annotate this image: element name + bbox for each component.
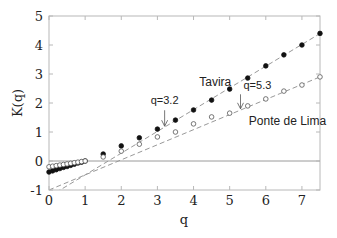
y-tick-label: 3 xyxy=(35,67,43,82)
series-label: Ponte de Lima xyxy=(249,114,327,128)
data-point xyxy=(191,122,196,127)
x-axis-ticks: 01234567 xyxy=(45,16,306,208)
data-point xyxy=(264,64,269,69)
data-point xyxy=(173,130,178,135)
y-tick-label: 0 xyxy=(35,154,43,169)
series-label: Tavira xyxy=(199,75,231,89)
y-axis-title: K(q) xyxy=(10,89,25,117)
data-point xyxy=(173,118,178,123)
x-tick-label: 0 xyxy=(45,193,53,208)
fit-line-ponte-de-lima xyxy=(49,77,320,190)
y-tick-label: 4 xyxy=(35,38,43,53)
data-point xyxy=(300,83,305,88)
x-tick-label: 7 xyxy=(298,193,306,208)
x-tick-label: 2 xyxy=(117,193,125,208)
data-point xyxy=(191,108,196,113)
data-point xyxy=(282,89,287,94)
data-point xyxy=(318,75,323,80)
data-point xyxy=(227,111,232,116)
data-point xyxy=(83,159,88,164)
data-point xyxy=(209,115,214,120)
data-point xyxy=(300,43,305,48)
plot-frame xyxy=(49,16,320,190)
plot-border xyxy=(49,16,320,190)
data-point xyxy=(137,142,142,147)
data-point xyxy=(264,97,269,102)
data-point xyxy=(282,53,287,58)
data-point xyxy=(101,155,106,160)
data-point xyxy=(119,149,124,154)
x-tick-label: 4 xyxy=(189,193,197,208)
arrow-label: q=5.3 xyxy=(244,79,272,91)
data-point xyxy=(318,31,323,36)
chart: 01234567 -1012345 TaviraPonte de Limaq=3… xyxy=(0,0,337,238)
data-point xyxy=(209,98,214,103)
arrow-label: q=3.2 xyxy=(151,94,179,106)
data-point xyxy=(155,135,160,140)
x-tick-label: 6 xyxy=(262,193,270,208)
y-tick-label: 2 xyxy=(35,96,43,111)
series-tavira xyxy=(47,31,323,174)
data-point xyxy=(155,127,160,132)
data-point xyxy=(137,136,142,141)
data-point xyxy=(245,104,250,109)
x-axis-title: q xyxy=(180,212,188,227)
y-tick-label: 5 xyxy=(35,9,43,24)
y-tick-label: 1 xyxy=(35,125,43,140)
markers xyxy=(47,31,323,174)
data-point xyxy=(119,144,124,149)
x-tick-label: 1 xyxy=(81,193,89,208)
x-tick-label: 5 xyxy=(226,193,234,208)
x-tick-label: 3 xyxy=(153,193,161,208)
y-tick-label: -1 xyxy=(30,183,43,198)
